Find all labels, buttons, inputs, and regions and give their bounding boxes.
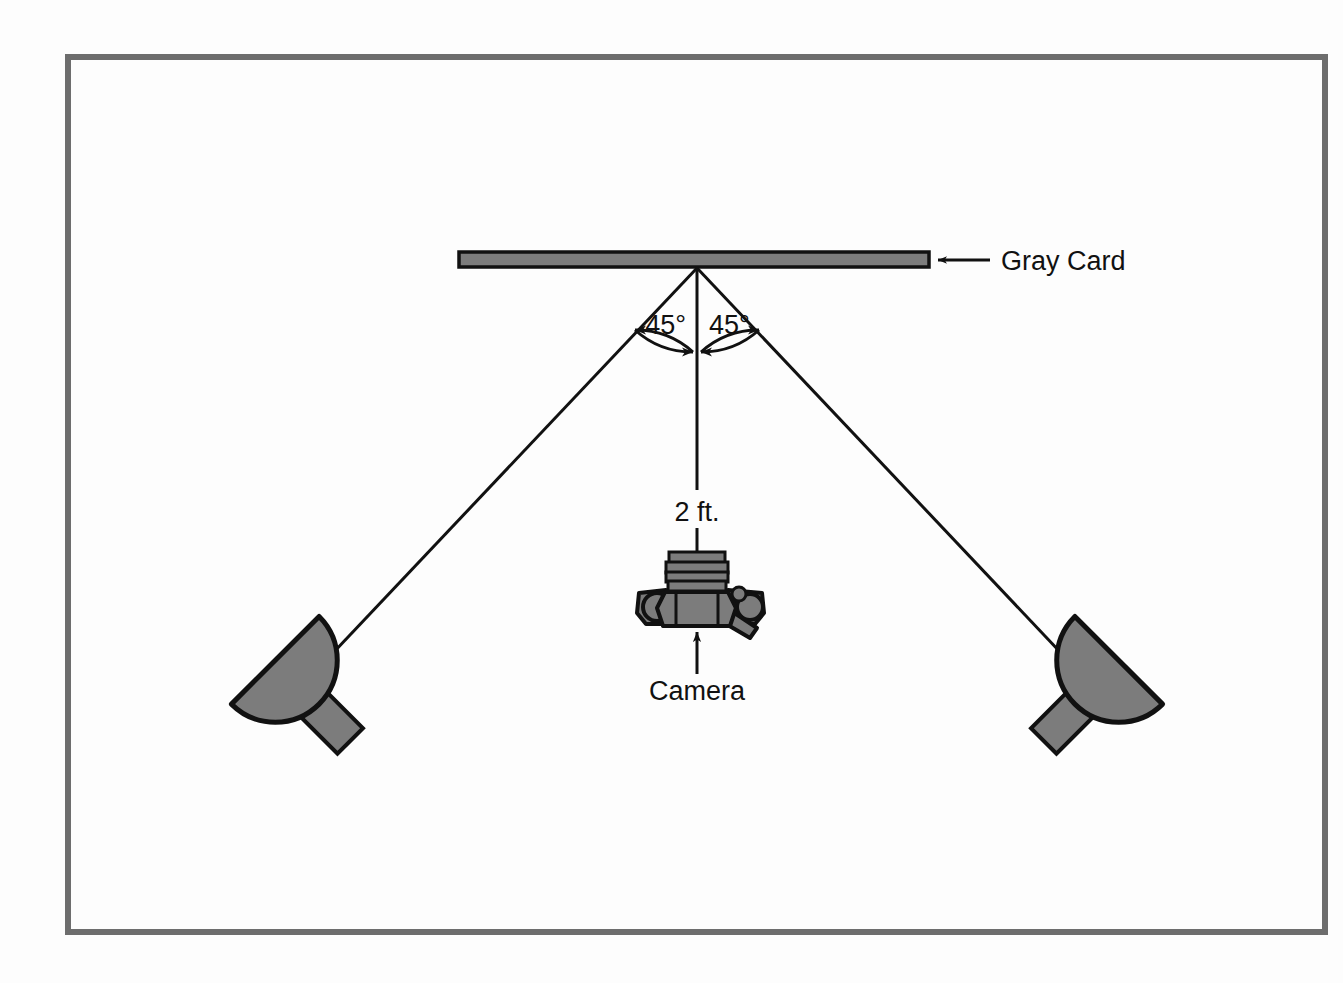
diagram-canvas: Gray Card 2 ft. 45° 45° [0, 0, 1343, 983]
gray-card [459, 252, 929, 267]
camera-label: Camera [649, 676, 746, 706]
gray-card-shape [459, 252, 929, 267]
camera-prism-housing [657, 592, 736, 626]
camera-lens-barrel [666, 552, 728, 591]
angle-label-left: 45° [645, 310, 686, 340]
distance-label: 2 ft. [674, 497, 719, 527]
gray-card-label: Gray Card [1001, 246, 1126, 276]
angle-label-right: 45° [709, 310, 750, 340]
lighting-setup-diagram: Gray Card 2 ft. 45° 45° [0, 0, 1343, 983]
diagram-border [68, 57, 1325, 932]
right-light [997, 616, 1162, 781]
left-light [231, 616, 396, 781]
lens-ring-4 [668, 581, 726, 591]
camera-illustration [637, 552, 764, 638]
camera-shutter-button [732, 587, 746, 601]
